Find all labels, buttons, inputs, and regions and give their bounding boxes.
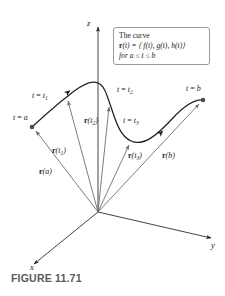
curve-point-t-b (201, 98, 206, 103)
label-vector-r-t2: r(t2) (84, 117, 98, 126)
label-vector-r-b: r(b) (162, 152, 175, 160)
x-axis (34, 212, 98, 264)
x-axis-label: x (30, 263, 34, 272)
label-t-equals-t3: t = t3 (123, 117, 139, 126)
z-axis-label: z (87, 19, 90, 28)
y-axis (98, 212, 211, 238)
curve-direction-arrow-1 (64, 88, 72, 96)
curve-definition-callout: The curve r(t) = ⟨ f(t), g(t), h(t)⟩ for… (113, 27, 210, 65)
position-vector-r-b (98, 104, 199, 212)
callout-line-3-text: for a ≤ t ≤ b (119, 51, 155, 60)
label-t-equals-b: t = b (186, 85, 201, 93)
curve-point-t-a (30, 125, 35, 130)
callout-line-2: r(t) = ⟨ f(t), g(t), h(t)⟩ (119, 41, 205, 51)
figure-container: z y x The curve r(t) = ⟨ f(t), g(t), h(t… (0, 0, 225, 296)
figure-caption: FIGURE 11.71 (11, 272, 82, 284)
label-t-equals-t2: t = t2 (117, 86, 133, 95)
callout-line-2-rest: (t) = ⟨ f(t), g(t), h(t)⟩ (122, 41, 185, 50)
label-t-equals-a: t = a (13, 114, 28, 122)
position-vector-r-t2 (98, 107, 109, 212)
label-vector-r-t3: r(t3) (128, 152, 142, 161)
y-axis-label: y (211, 241, 215, 250)
callout-line-3: for a ≤ t ≤ b (119, 51, 205, 61)
label-vector-r-t1: r(t1) (52, 147, 66, 156)
label-t-equals-t1: t = t1 (32, 92, 48, 101)
position-vector-r-t3 (98, 145, 129, 212)
label-vector-r-a: r(a) (39, 168, 52, 176)
callout-line-1: The curve (119, 31, 205, 41)
